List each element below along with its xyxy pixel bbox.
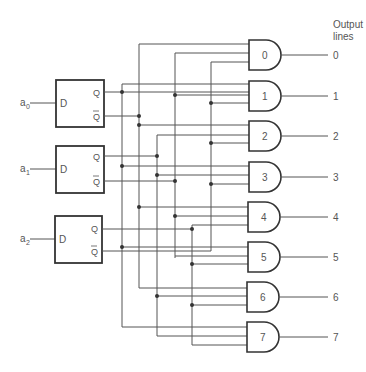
ff1-q-label: Q: [93, 152, 100, 162]
ff2-q-label: Q: [91, 224, 98, 234]
gate-5-label: 5: [261, 252, 267, 263]
gate-0-label: 0: [262, 50, 268, 61]
output-4-label: 4: [333, 212, 339, 223]
ff0-qbar-label: Q: [93, 112, 100, 122]
output-6-label: 6: [333, 292, 339, 303]
gate-3-label: 3: [262, 172, 268, 183]
gate-2-label: 2: [262, 131, 268, 142]
ff2-qbar-label: Q: [91, 247, 98, 257]
output-5-label: 5: [333, 252, 339, 263]
flipflop-1: a 1 D Q Q: [20, 146, 104, 193]
input-a0-sub: 0: [26, 103, 30, 110]
and-gate-7: 7 7: [247, 322, 339, 352]
ff1-d-label: D: [60, 164, 67, 175]
output-1-label: 1: [333, 91, 339, 102]
output-lines-label-1: Output: [333, 19, 363, 30]
and-gate-6: 6 6: [247, 282, 339, 312]
and-gate-1: 1 1: [249, 81, 339, 111]
ff2-d-label: D: [59, 234, 66, 245]
and-gate-5: 5 5: [248, 242, 339, 272]
flipflop-2: a 2 D Q Q: [20, 216, 102, 263]
output-lines-label-2: lines: [333, 31, 354, 42]
ff0-q-label: Q: [93, 88, 100, 98]
bus-wiring: [102, 44, 249, 345]
and-gate-4: 4 4: [248, 202, 339, 232]
and-gate-3: 3 3: [249, 162, 339, 192]
flipflop-0: a 0 D Q Q: [20, 80, 104, 127]
gate-1-label: 1: [262, 91, 268, 102]
decoder-diagram: Output lines a 0 D Q Q a 1 D Q Q a 2 D Q…: [0, 0, 366, 372]
and-gate-0: 0 0: [249, 40, 339, 70]
gate-4-label: 4: [261, 212, 267, 223]
gate-6-label: 6: [260, 292, 266, 303]
ff1-qbar-label: Q: [93, 177, 100, 187]
and-gate-2: 2 2: [249, 121, 339, 151]
output-0-label: 0: [333, 50, 339, 61]
ff0-d-label: D: [60, 98, 67, 109]
output-3-label: 3: [333, 172, 339, 183]
junction-dots: [120, 90, 213, 307]
output-2-label: 2: [333, 131, 339, 142]
output-7-label: 7: [333, 332, 339, 343]
input-a2-sub: 2: [26, 239, 30, 246]
gate-7-label: 7: [260, 332, 266, 343]
input-a1-sub: 1: [26, 169, 30, 176]
